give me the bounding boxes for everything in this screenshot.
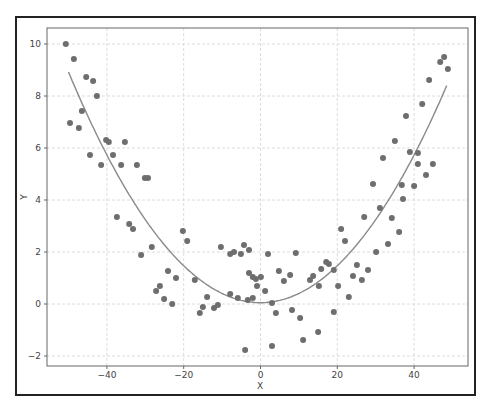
data-point (94, 93, 100, 99)
y-tick-label: 4 (35, 195, 41, 205)
data-point (315, 329, 321, 335)
data-point (138, 252, 144, 258)
x-tick-label: 20 (332, 370, 344, 380)
data-point (400, 196, 406, 202)
x-axis-ticks: −40−2002040 (97, 366, 420, 380)
data-point (399, 182, 405, 188)
data-point (126, 221, 132, 227)
y-tick-label: 8 (35, 91, 41, 101)
data-point (169, 301, 175, 307)
data-point (218, 244, 224, 250)
data-point (83, 74, 89, 80)
y-tick-label: 0 (35, 299, 41, 309)
data-point (289, 307, 295, 313)
data-point (63, 41, 69, 47)
data-point (76, 125, 82, 131)
data-point (149, 244, 155, 250)
y-axis-ticks: −20246810 (28, 39, 47, 361)
data-point (407, 149, 413, 155)
data-point (242, 347, 248, 353)
data-point (370, 181, 376, 187)
data-point (338, 226, 344, 232)
data-point (361, 214, 367, 220)
data-point (300, 337, 306, 343)
data-point (265, 251, 271, 257)
data-point (130, 226, 136, 232)
data-point (342, 238, 348, 244)
data-point (396, 229, 402, 235)
data-point (192, 277, 198, 283)
data-point (145, 175, 151, 181)
data-point (184, 238, 190, 244)
data-point (346, 294, 352, 300)
data-point (392, 138, 398, 144)
data-point (426, 77, 432, 83)
data-point (254, 283, 260, 289)
data-point (238, 251, 244, 257)
data-point (87, 152, 93, 158)
data-point (241, 242, 247, 248)
x-tick-label: −40 (97, 370, 116, 380)
data-point (415, 161, 421, 167)
data-point (287, 272, 293, 278)
data-point (110, 152, 116, 158)
y-tick-label: 6 (35, 143, 41, 153)
data-point (437, 59, 443, 65)
data-point (197, 310, 203, 316)
data-point (215, 302, 221, 308)
data-point (153, 288, 159, 294)
y-tick-label: 10 (30, 39, 42, 49)
data-point (350, 273, 356, 279)
data-point (441, 54, 447, 60)
data-point (430, 161, 436, 167)
data-point (227, 291, 233, 297)
data-point (246, 247, 252, 253)
data-point (281, 278, 287, 284)
data-point (297, 315, 303, 321)
data-point (200, 304, 206, 310)
data-point (250, 295, 256, 301)
data-point (445, 66, 451, 72)
data-point (227, 251, 233, 257)
data-point (403, 113, 409, 119)
data-point (326, 261, 332, 267)
data-point (67, 120, 73, 126)
data-point (262, 288, 268, 294)
data-point (377, 205, 383, 211)
data-point (354, 262, 360, 268)
data-point (373, 249, 379, 255)
y-tick-label: −2 (28, 351, 41, 361)
data-point (365, 267, 371, 273)
data-point (310, 273, 316, 279)
y-axis-label: Y (19, 194, 29, 201)
x-tick-label: 0 (258, 370, 264, 380)
data-point (173, 275, 179, 281)
data-point (71, 56, 77, 62)
scatter-chart: −40−2002040 −20246810 X Y (0, 0, 490, 412)
x-tick-label: 40 (408, 370, 420, 380)
data-point (122, 139, 128, 145)
data-point (293, 250, 299, 256)
data-point (331, 309, 337, 315)
data-point (165, 268, 171, 274)
data-point (419, 101, 425, 107)
data-point (380, 155, 386, 161)
data-point (98, 162, 104, 168)
data-points (63, 41, 451, 353)
data-point (359, 277, 365, 283)
data-point (157, 283, 163, 289)
data-point (161, 296, 167, 302)
data-point (134, 162, 140, 168)
data-point (269, 300, 275, 306)
data-point (276, 268, 282, 274)
data-point (180, 228, 186, 234)
y-tick-label: 2 (35, 247, 41, 257)
data-point (269, 343, 275, 349)
data-point (415, 150, 421, 156)
data-point (114, 214, 120, 220)
x-axis-label: X (257, 381, 263, 391)
data-point (331, 267, 337, 273)
data-point (318, 266, 324, 272)
data-point (118, 162, 124, 168)
data-point (423, 172, 429, 178)
